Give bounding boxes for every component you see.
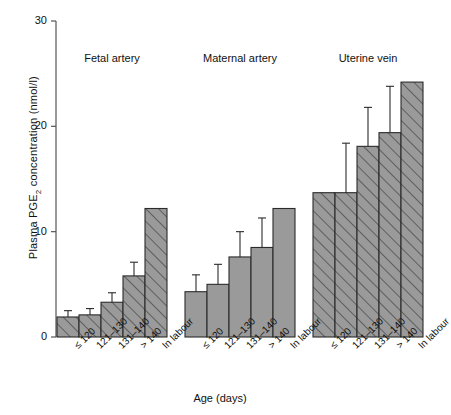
bar bbox=[57, 317, 79, 337]
y-tick-label: 0 bbox=[21, 330, 47, 342]
bars-layer bbox=[57, 82, 423, 337]
y-axis-title-post: concentration (nmol/l) bbox=[27, 76, 39, 189]
y-tick-label: 20 bbox=[21, 119, 47, 131]
y-tick-label: 10 bbox=[21, 225, 47, 237]
y-axis-title: Plasma PGE2 concentration (nmol/l) bbox=[27, 38, 42, 298]
bar bbox=[357, 146, 379, 337]
bar bbox=[401, 82, 423, 337]
y-axis-title-sub: 2 bbox=[34, 190, 43, 195]
bar bbox=[335, 193, 357, 337]
x-axis-title: Age (days) bbox=[0, 392, 440, 404]
bar bbox=[273, 208, 295, 337]
bar bbox=[379, 133, 401, 337]
y-tick-label: 30 bbox=[21, 14, 47, 26]
bar bbox=[145, 208, 167, 337]
group-title: Uterine vein bbox=[291, 52, 445, 64]
